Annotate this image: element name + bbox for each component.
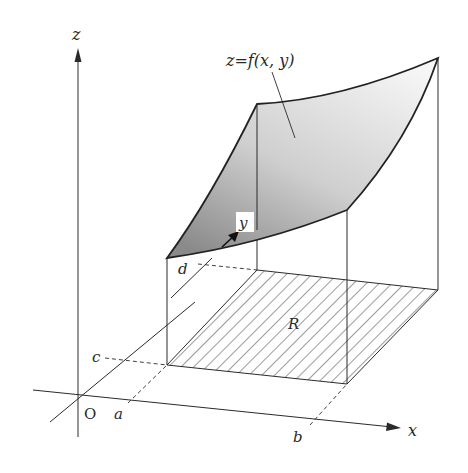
b-label: b bbox=[293, 428, 303, 446]
b-projection bbox=[310, 384, 347, 425]
c-label: c bbox=[92, 348, 101, 366]
a-projection bbox=[128, 365, 167, 403]
surface-z-fxy bbox=[167, 58, 438, 258]
z-axis-arrow-icon bbox=[75, 48, 82, 62]
region-label: R bbox=[287, 315, 299, 333]
z-axis-label: z bbox=[71, 25, 81, 44]
d-projection bbox=[198, 264, 257, 270]
surface-label: z=f(x, y) bbox=[225, 51, 294, 70]
surface-integral-diagram: z x y O a b c d R z=f(x, y) bbox=[0, 0, 468, 473]
c-projection bbox=[105, 358, 167, 365]
x-axis-arrow-icon bbox=[386, 423, 401, 432]
a-label: a bbox=[114, 405, 123, 423]
region-r bbox=[150, 250, 450, 400]
d-label: d bbox=[178, 260, 188, 278]
y-axis-label: y bbox=[238, 214, 248, 232]
x-axis-label: x bbox=[408, 421, 417, 440]
origin-label: O bbox=[84, 405, 96, 423]
